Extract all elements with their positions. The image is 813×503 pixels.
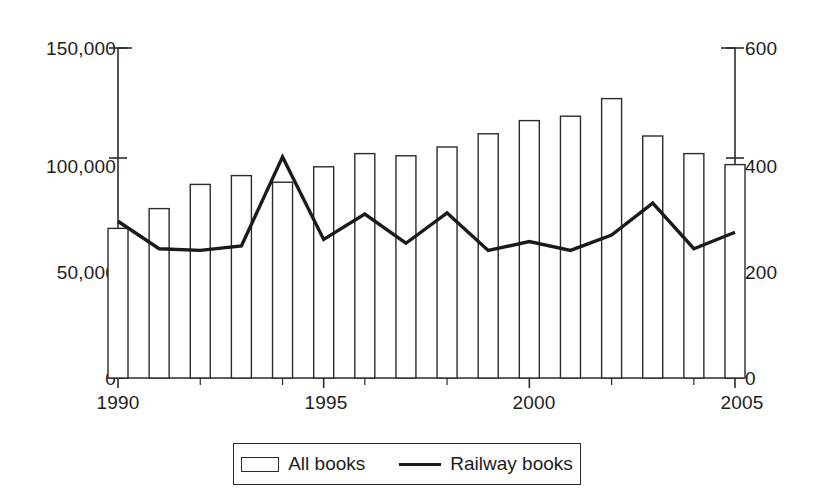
bar-1991 xyxy=(149,209,169,378)
bar-2003 xyxy=(643,136,663,378)
plot-area xyxy=(0,0,813,503)
bar-2005 xyxy=(725,165,745,378)
bar-1992 xyxy=(190,184,210,378)
bar-1997 xyxy=(396,156,416,378)
bar-swatch-icon xyxy=(241,457,279,472)
chart-legend: All books Railway books xyxy=(233,443,581,485)
bar-1995 xyxy=(314,167,334,378)
bar-1994 xyxy=(273,182,293,378)
bar-1990 xyxy=(108,228,128,378)
bar-1998 xyxy=(437,147,457,378)
chart-container: 150,000 100,000 50,000 0 600 400 200 0 1… xyxy=(0,0,813,503)
bar-series-all-books xyxy=(108,99,745,378)
bar-2004 xyxy=(684,154,704,378)
legend-item-all-books: All books xyxy=(241,453,365,475)
legend-label-railway-books: Railway books xyxy=(450,453,573,475)
bar-2000 xyxy=(519,121,539,378)
legend-item-railway-books: Railway books xyxy=(399,453,573,475)
bar-1996 xyxy=(355,154,375,378)
bar-1999 xyxy=(478,134,498,378)
line-swatch-icon xyxy=(399,463,441,466)
bar-1993 xyxy=(231,176,251,378)
legend-label-all-books: All books xyxy=(288,453,365,475)
